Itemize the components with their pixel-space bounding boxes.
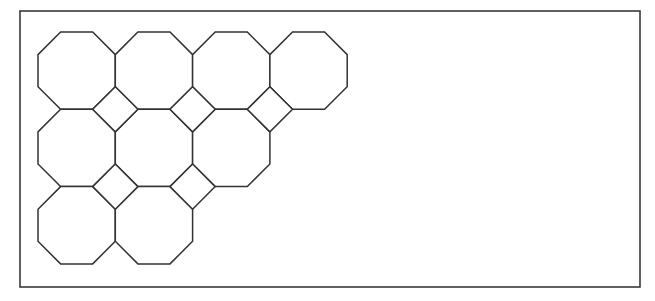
octagon-group xyxy=(38,32,347,264)
tiling-diagram xyxy=(0,0,655,301)
